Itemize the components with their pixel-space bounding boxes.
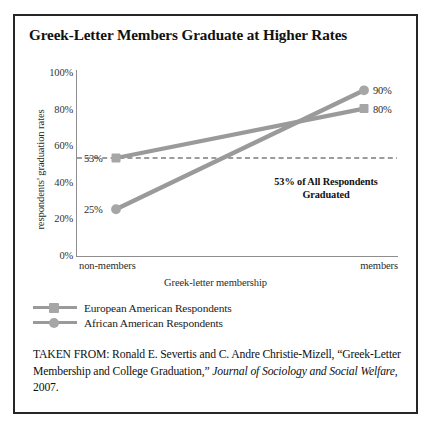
point-label-african-american-members: 90% (373, 85, 392, 96)
legend-label-african-american: African American Respondents (84, 317, 223, 329)
point-label-european-american-members: 80% (373, 103, 392, 114)
marker-african-american-members (359, 85, 369, 95)
reference-annotation-line-1: 53% of All Respondents (251, 176, 401, 189)
legend-swatch-circle-icon (33, 317, 77, 329)
x-axis-title: Greek-letter membership (15, 277, 416, 288)
point-label-african-american-non-members: 25% (84, 204, 103, 215)
legend-item-european-american: European American Respondents (33, 300, 403, 315)
legend-item-african-american: African American Respondents (33, 315, 403, 330)
citation-journal: Journal of Sociology and Social Welfare (212, 365, 395, 378)
figure-container: Greek-Letter Members Graduate at Higher … (13, 14, 418, 414)
x-tick-label-members: members (360, 260, 398, 271)
citation-authors: Ronald E. Severtis and C. Andre Christie… (112, 348, 334, 361)
citation-prefix: TAKEN FROM: (33, 348, 109, 361)
reference-annotation-line-2: Graduated (251, 189, 401, 202)
marker-european-american-members (360, 104, 369, 113)
point-label-european-american-non-members: 53% (84, 153, 103, 164)
x-tick-label-non-members: non-members (79, 260, 136, 271)
marker-african-american-non-members (111, 204, 121, 214)
legend-swatch-square-icon (33, 302, 77, 314)
reference-line-annotation: 53% of All Respondents Graduated (251, 176, 401, 201)
source-citation: TAKEN FROM: Ronald E. Severtis and C. An… (33, 347, 401, 397)
chart-legend: European American Respondents African Am… (33, 300, 403, 330)
legend-label-european-american: European American Respondents (84, 302, 231, 314)
marker-european-american-non-members (112, 154, 121, 163)
